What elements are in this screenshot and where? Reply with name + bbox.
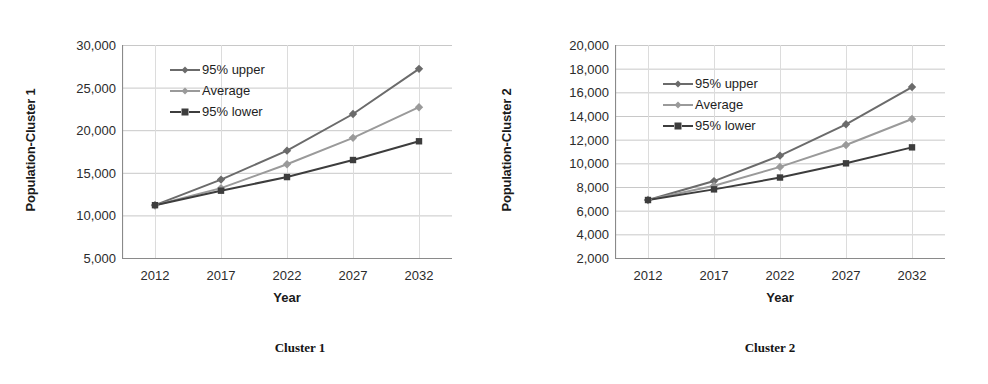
y-tick-label: 10,000 [470,156,609,171]
legend-label: 95% upper [202,62,265,77]
x-tick-label: 2027 [339,268,368,283]
chart-legend: 95% upperAverage95% lower [663,73,758,136]
y-tick-label: 20,000 [470,38,609,53]
y-tick-label: 25,000 [0,80,116,95]
x-tick-label: 2022 [766,268,795,283]
panel-caption-cluster-1: Cluster 1 [275,340,326,356]
y-tick-label: 16,000 [470,85,609,100]
y-tick-label: 10,000 [0,208,116,223]
legend-line-marker-icon [170,85,200,97]
x-tick-label: 2012 [634,268,663,283]
legend-line-marker-icon [170,106,200,118]
legend-line-marker-icon [170,64,200,76]
y-tick-label: 4,000 [470,227,609,242]
y-tick-label: 6,000 [470,203,609,218]
legend-item[interactable]: Average [663,94,758,115]
chart-legend: 95% upperAverage95% lower [170,59,265,122]
x-tick-label: 2017 [207,268,236,283]
legend-label: 95% upper [695,76,758,91]
y-tick-label: 18,000 [470,61,609,76]
y-tick-label: 14,000 [470,109,609,124]
y-tick-label: 12,000 [470,132,609,147]
x-axis-title-cluster-2: Year [766,290,793,305]
legend-item[interactable]: 95% lower [170,101,265,122]
figure-container: Population-Cluster 1 Year Cluster 1 5,00… [0,0,988,384]
x-tick-label: 2032 [405,268,434,283]
y-tick-label: 5,000 [0,251,116,266]
x-axis-title-cluster-1: Year [273,290,300,305]
panel-caption-cluster-2: Cluster 2 [745,340,796,356]
x-tick-label: 2022 [273,268,302,283]
y-tick-label: 15,000 [0,165,116,180]
legend-item[interactable]: 95% lower [663,115,758,136]
y-tick-label: 20,000 [0,123,116,138]
chart-panel-cluster-1: Population-Cluster 1 Year Cluster 1 5,00… [0,0,470,384]
legend-line-marker-icon [663,120,693,132]
legend-line-marker-icon [663,78,693,90]
y-tick-label: 30,000 [0,38,116,53]
x-tick-label: 2017 [700,268,729,283]
legend-item[interactable]: 95% upper [170,59,265,80]
x-tick-label: 2032 [898,268,927,283]
legend-label: 95% lower [202,104,263,119]
y-axis-title-cluster-1: Population-Cluster 1 [23,88,38,211]
legend-item[interactable]: 95% upper [663,73,758,94]
legend-label: 95% lower [695,118,756,133]
legend-label: Average [202,83,250,98]
x-tick-label: 2027 [832,268,861,283]
legend-item[interactable]: Average [170,80,265,101]
legend-line-marker-icon [663,99,693,111]
x-tick-label: 2012 [141,268,170,283]
y-tick-label: 8,000 [470,180,609,195]
legend-label: Average [695,97,743,112]
chart-panel-cluster-2: Population-Cluster 2 Year Cluster 2 2,00… [470,0,988,384]
y-tick-label: 2,000 [470,251,609,266]
